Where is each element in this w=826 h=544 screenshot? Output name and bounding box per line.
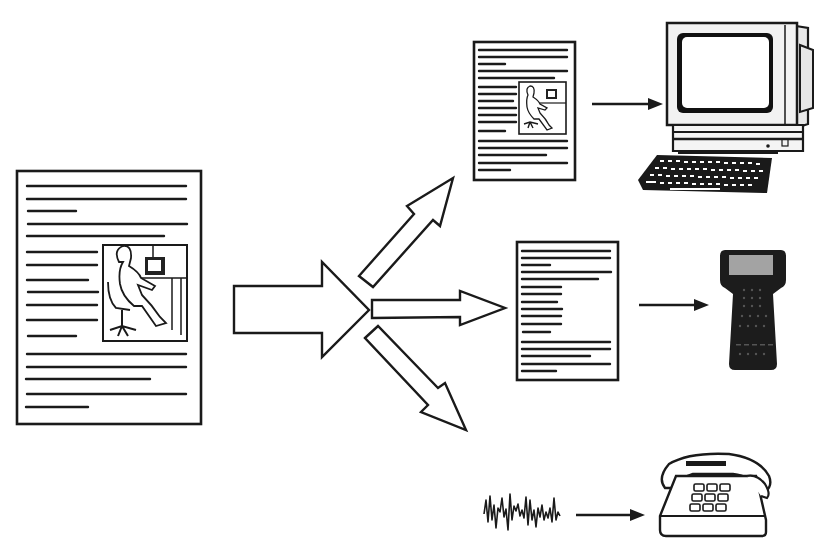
arrow-to-handheld (639, 299, 709, 311)
person-at-computer-icon (103, 245, 187, 341)
output-arrow-down (365, 326, 466, 430)
arrow-to-telephone (576, 509, 645, 521)
telephone-keypad (690, 484, 730, 511)
audio-waveform-icon (484, 494, 560, 530)
telephone-icon (660, 454, 770, 536)
source-document (17, 171, 201, 424)
input-arrow (234, 262, 369, 357)
output-arrow-up (359, 178, 453, 287)
text-only-document (517, 242, 618, 380)
handheld-device-icon (720, 250, 786, 370)
person-at-computer-icon (519, 82, 566, 134)
output-arrow-middle (372, 291, 505, 325)
rich-document (474, 42, 575, 180)
arrow-to-computer (592, 98, 663, 110)
diagram-canvas (0, 0, 826, 544)
desktop-computer-icon (638, 23, 813, 193)
